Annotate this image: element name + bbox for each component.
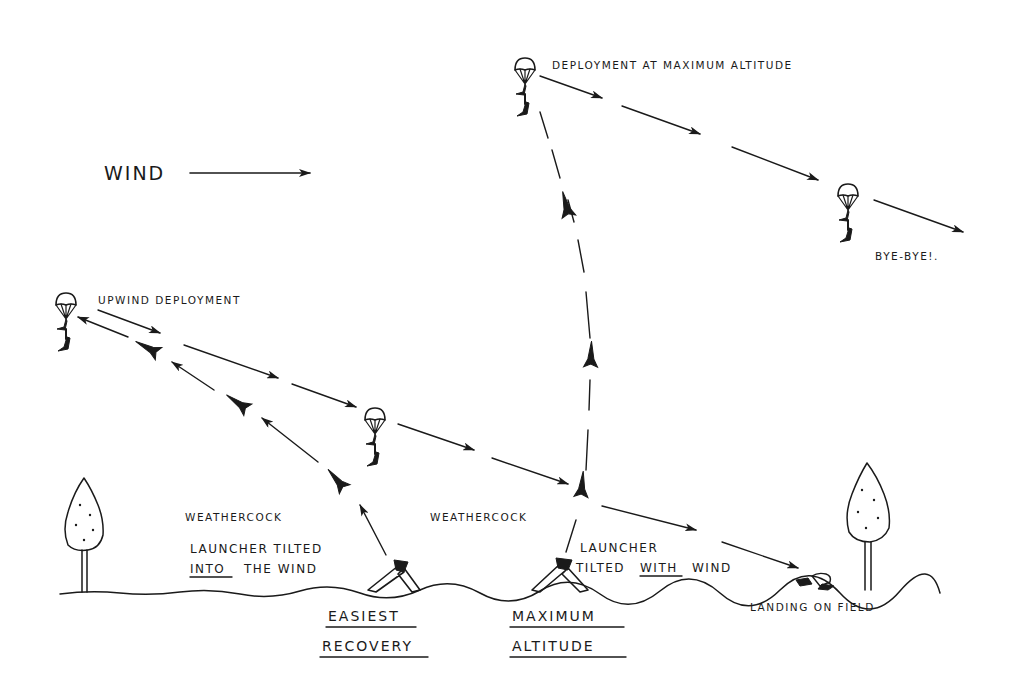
into-emphasis-label: INTO xyxy=(190,562,225,576)
tree-icon xyxy=(65,478,103,592)
launcher-tilted-left-label: LAUNCHER TILTED xyxy=(190,542,323,556)
parachute-icon xyxy=(838,184,858,242)
parachute-icon xyxy=(365,408,385,466)
caption-maximum-altitude: MAXIMUM ALTITUDE xyxy=(510,608,626,657)
wind-label: WIND xyxy=(104,162,165,184)
parachute-icon xyxy=(56,293,76,351)
launcher-left-icon xyxy=(368,560,420,592)
bye-bye-label: BYE-BYE!. xyxy=(875,250,939,262)
weathercock-right-label: WEATHERCOCK xyxy=(430,511,527,523)
caption-left-line1: EASIEST xyxy=(328,608,400,624)
max-altitude-drift-path xyxy=(540,76,963,242)
wind-indicator: WIND xyxy=(104,162,310,184)
tree-icon xyxy=(847,463,889,590)
caption-easiest-recovery: EASIEST RECOVERY xyxy=(320,608,428,657)
vertical-flight-path xyxy=(540,112,598,552)
caption-right-line1: MAXIMUM xyxy=(512,608,596,624)
deployment-max-altitude-label: DEPLOYMENT AT MAXIMUM ALTITUDE xyxy=(552,59,793,71)
rocket-recovery-diagram: WIND UPWIND DEPLOYMENT xyxy=(0,0,1009,687)
the-wind-label: THE WIND xyxy=(243,562,317,576)
weathercock-left-label: WEATHERCOCK xyxy=(185,511,282,523)
upwind-deployment-label: UPWIND DEPLOYMENT xyxy=(98,294,241,306)
caption-right-line2: ALTITUDE xyxy=(512,638,595,654)
parachute-icon xyxy=(515,58,535,116)
upwind-drift-path xyxy=(98,310,798,568)
with-emphasis-label: WITH xyxy=(640,561,678,575)
launcher-right-label: LAUNCHER xyxy=(580,541,658,555)
tilted-label: TILTED xyxy=(575,561,625,575)
wind-right-label: WIND xyxy=(692,561,732,575)
caption-left-line2: RECOVERY xyxy=(322,638,413,654)
landing-on-field-label: LANDING ON FIELD xyxy=(750,601,875,613)
